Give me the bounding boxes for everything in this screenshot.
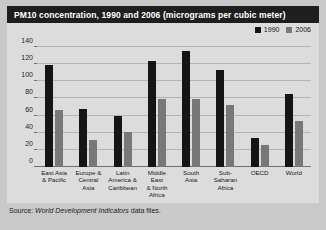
y-axis-tick-label: 80 bbox=[25, 88, 33, 95]
legend-item-1990: 1990 bbox=[255, 26, 280, 33]
bar-1990 bbox=[148, 61, 156, 167]
bar-group bbox=[243, 47, 277, 167]
bar-group bbox=[37, 47, 71, 167]
plot-area: 020406080100120140 bbox=[37, 47, 311, 167]
bar-group bbox=[277, 47, 311, 167]
chart-title: PM10 concentration, 1990 and 2006 (micro… bbox=[7, 6, 319, 23]
bar-2006 bbox=[158, 99, 166, 167]
legend-label-2006: 2006 bbox=[295, 26, 311, 33]
bar-1990 bbox=[216, 70, 224, 167]
x-axis-label: Europe &CentralAsia bbox=[71, 169, 105, 199]
x-axis-label: LatinAmerica &Caribbean bbox=[106, 169, 140, 199]
bar-1990 bbox=[45, 65, 53, 167]
y-axis-tick-label: 140 bbox=[21, 37, 33, 44]
y-axis-tick-label: 0 bbox=[29, 157, 33, 164]
x-axis-labels: East Asia& PacificEurope &CentralAsiaLat… bbox=[37, 169, 311, 199]
bar-1990 bbox=[251, 138, 259, 167]
x-axis-label: East Asia& Pacific bbox=[37, 169, 71, 199]
x-axis-label: SouthAsia bbox=[174, 169, 208, 199]
bar-2006 bbox=[261, 145, 269, 167]
bar-1990 bbox=[182, 51, 190, 167]
legend-swatch-1990 bbox=[255, 27, 261, 33]
bar-group bbox=[140, 47, 174, 167]
source-suffix: data files. bbox=[129, 207, 161, 214]
chart-panel: 1990 2006 020406080100120140 East Asia& … bbox=[7, 23, 319, 203]
x-axis-label: Middle East& NorthAfrica bbox=[140, 169, 174, 199]
bar-2006 bbox=[295, 121, 303, 167]
y-axis-tick-label: 40 bbox=[25, 122, 33, 129]
bar-2006 bbox=[226, 105, 234, 167]
source-note: Source: World Development Indicators dat… bbox=[9, 207, 161, 214]
source-prefix: Source: bbox=[9, 207, 35, 214]
x-axis-label: World bbox=[277, 169, 311, 199]
legend-label-1990: 1990 bbox=[264, 26, 280, 33]
bar-group bbox=[106, 47, 140, 167]
y-axis-tick-label: 120 bbox=[21, 54, 33, 61]
y-axis-tick-label: 20 bbox=[25, 139, 33, 146]
bar-1990 bbox=[114, 116, 122, 167]
bar-1990 bbox=[285, 94, 293, 167]
legend-swatch-2006 bbox=[286, 27, 292, 33]
source-italic: World Development Indicators bbox=[35, 207, 129, 214]
bar-group bbox=[71, 47, 105, 167]
bar-1990 bbox=[79, 109, 87, 167]
x-axis-label: OECD bbox=[243, 169, 277, 199]
chart-figure: PM10 concentration, 1990 and 2006 (micro… bbox=[0, 0, 326, 230]
bar-2006 bbox=[89, 140, 97, 167]
x-axis-label: Sub-SaharanAfrica bbox=[208, 169, 242, 199]
bar-2006 bbox=[124, 132, 132, 167]
chart-legend: 1990 2006 bbox=[255, 26, 311, 33]
legend-item-2006: 2006 bbox=[286, 26, 311, 33]
bar-group bbox=[174, 47, 208, 167]
y-axis-tick-label: 100 bbox=[21, 71, 33, 78]
bar-group bbox=[208, 47, 242, 167]
bar-2006 bbox=[192, 99, 200, 167]
y-axis-tick-label: 60 bbox=[25, 105, 33, 112]
bar-groups bbox=[37, 47, 311, 167]
bar-2006 bbox=[55, 110, 63, 167]
